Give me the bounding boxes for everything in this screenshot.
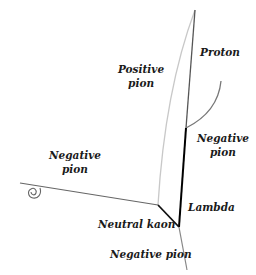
proton-track	[186, 10, 195, 128]
label-negative-pion-bottom: Negative pion	[110, 247, 192, 261]
label-neutral-kaon: Neutral kaon	[98, 217, 175, 231]
negative-pion-curve-track	[186, 81, 221, 128]
spiral-track	[29, 188, 41, 198]
label-positive-pion: Positive pion	[118, 62, 164, 90]
label-negative-pion-right-line1: Negative	[197, 131, 249, 145]
label-negative-pion-left-line1: Negative	[49, 148, 101, 162]
positive-pion-track	[158, 10, 195, 205]
label-negative-pion-right: Negative pion	[197, 131, 249, 159]
label-lambda: Lambda	[188, 200, 235, 214]
negative-pion-left-track	[20, 183, 158, 205]
label-proton: Proton	[200, 45, 240, 59]
label-positive-pion-line1: Positive	[118, 62, 164, 76]
label-negative-pion-left-line2: pion	[49, 162, 101, 176]
label-negative-pion-left: Negative pion	[49, 148, 101, 176]
label-negative-pion-right-line2: pion	[197, 145, 249, 159]
label-positive-pion-line2: pion	[118, 76, 164, 90]
lambda-track	[179, 128, 186, 227]
